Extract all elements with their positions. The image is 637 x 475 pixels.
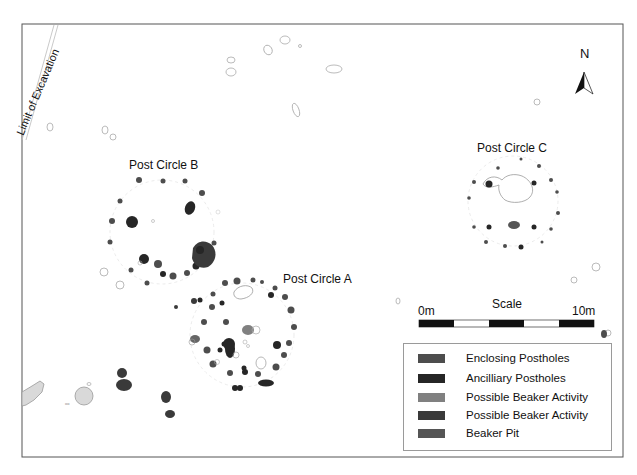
legend-swatch <box>418 393 445 402</box>
legend-label: Beaker Pit <box>466 427 519 439</box>
isolated-postholes <box>116 298 197 418</box>
legend-item-possible-beaker-activity-dark: Possible Beaker Activity <box>418 409 588 421</box>
legend-swatch <box>418 411 445 420</box>
scale-end-label: 10m <box>572 304 595 318</box>
post-circle-b-label: Post Circle B <box>129 158 198 172</box>
post-circle-b <box>108 177 221 286</box>
legend-swatch <box>418 374 445 383</box>
legend-label: Enclosing Postholes <box>466 352 570 364</box>
post-circle-a-label: Post Circle A <box>283 272 352 286</box>
legend-item-possible-beaker-activity-light: Possible Beaker Activity <box>418 391 588 403</box>
legend-item-ancillary-postholes: Ancilliary Postholes <box>418 372 566 384</box>
scale-start-label: 0m <box>418 304 435 318</box>
post-circle-c <box>467 156 560 250</box>
legend-label: Possible Beaker Activity <box>466 391 588 403</box>
post-circle-a <box>189 278 297 392</box>
legend-item-enclosing-postholes: Enclosing Postholes <box>418 352 570 364</box>
legend: Enclosing Postholes Ancilliary Postholes… <box>403 343 612 451</box>
north-arrow-icon <box>575 72 593 94</box>
beaker-pit <box>508 221 520 229</box>
natural-feature-large <box>22 381 44 406</box>
natural-features <box>47 36 611 354</box>
scale-title: Scale <box>492 297 522 311</box>
legend-swatch <box>418 354 445 363</box>
legend-label: Ancilliary Postholes <box>466 372 566 384</box>
natural-feature-round <box>75 387 93 405</box>
legend-swatch <box>418 429 445 438</box>
north-label: N <box>580 46 589 61</box>
legend-label: Possible Beaker Activity <box>466 409 588 421</box>
svg-text:oo: oo <box>65 401 70 406</box>
post-circle-c-label: Post Circle C <box>477 141 547 155</box>
scale-bar <box>419 320 594 327</box>
legend-item-beaker-pit: Beaker Pit <box>418 427 519 439</box>
